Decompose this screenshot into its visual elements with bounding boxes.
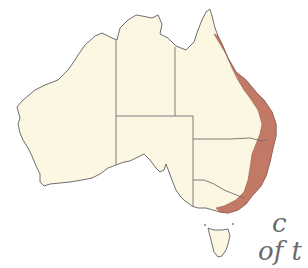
caption-line-1: c: [272, 210, 287, 236]
mainland-outline: [17, 9, 276, 213]
caption-line-2: of t: [258, 238, 302, 264]
australia-map: [0, 0, 308, 268]
island-dot: [204, 224, 206, 226]
tasmania-outline: [208, 228, 230, 257]
island-dot: [232, 223, 234, 225]
